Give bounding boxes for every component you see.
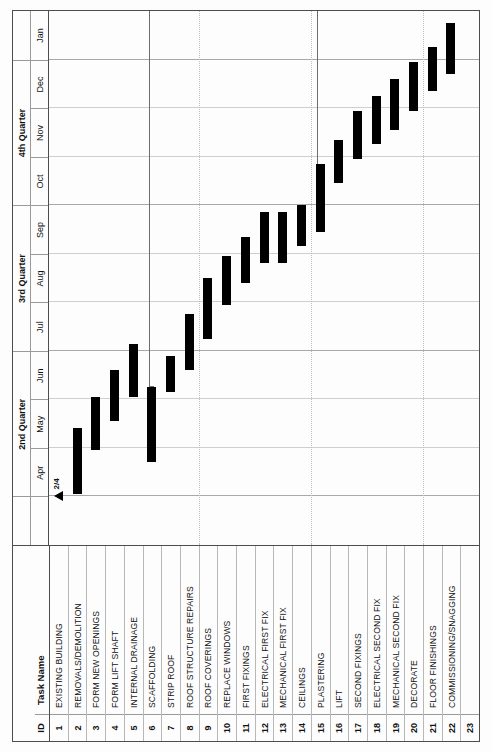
quarter-header: 4th Quarter [13, 60, 30, 206]
cell-task-name: COMMISSIONING/SNAGGING [443, 546, 461, 714]
gantt-bar[interactable] [390, 79, 399, 130]
cell-task-id: 5 [125, 714, 143, 741]
cell-task-id: 20 [405, 714, 423, 741]
gantt-bar[interactable] [278, 212, 287, 263]
milestone-marker-icon[interactable] [54, 491, 63, 501]
cell-task-name: EXISTING BUILDING [50, 546, 68, 714]
table-row[interactable]: 1EXISTING BUILDING [50, 546, 69, 741]
table-row[interactable]: 5INTERNAL DRAINAGE [125, 546, 144, 741]
table-row[interactable]: 12ELECTRICAL FIRST FIX [256, 546, 275, 741]
timescale-quarters: 2nd Quarter3rd Quarter4th Quarter [13, 11, 31, 545]
month-header: Nov [31, 108, 48, 157]
month-header: Apr [31, 448, 48, 497]
gantt-bar[interactable] [91, 397, 100, 450]
table-row[interactable]: 8ROOF STRUCTURE REPAIRS [181, 546, 200, 741]
month-header: Oct [31, 157, 48, 206]
table-row[interactable]: 15PLASTERING [312, 546, 331, 741]
timeline-gridline [49, 156, 479, 157]
cell-task-id: 14 [293, 714, 311, 741]
table-row[interactable]: 13MECHANICAL FIRST FIX [274, 546, 293, 741]
quarter-header: 2nd Quarter [13, 351, 30, 497]
cell-task-id: 23 [461, 714, 479, 741]
cell-task-name: FIRST FIXINGS [237, 546, 255, 714]
gantt-bar[interactable] [110, 370, 119, 421]
gantt-page: ID Task Name 1EXISTING BUILDING2REMOVALS… [0, 0, 492, 752]
cell-task-name: CEILINGS [293, 546, 311, 714]
cell-task-id: 17 [349, 714, 367, 741]
table-row[interactable]: 19MECHANICAL SECOND FIX [387, 546, 406, 741]
cell-task-name: LIFT [331, 546, 349, 714]
cell-task-name: PLASTERING [312, 546, 330, 714]
summary-link-line [149, 11, 150, 387]
gantt-bar[interactable] [147, 387, 156, 462]
timescale-months: AprMayJunJulAugSepOctNovDecJan [31, 11, 49, 545]
row-band-separator [199, 11, 200, 545]
table-row[interactable]: 3FORM NEW OPENINGS [87, 546, 106, 741]
timeline-gridline [49, 350, 479, 351]
month-header: Jun [31, 351, 48, 400]
month-header: May [31, 399, 48, 448]
table-row[interactable]: 20DECORATE [405, 546, 424, 741]
table-row[interactable]: 23 [461, 546, 479, 741]
cell-task-id: 2 [69, 714, 87, 741]
gantt-bar[interactable] [334, 140, 343, 184]
quarter-header: 3rd Quarter [13, 205, 30, 351]
gantt-bar[interactable] [185, 314, 194, 370]
timeline-pane: 2nd Quarter3rd Quarter4th Quarter AprMay… [13, 11, 479, 545]
cell-task-name: REMOVALS/DEMOLITION [69, 546, 87, 714]
table-row[interactable]: 11FIRST FIXINGS [237, 546, 256, 741]
cell-task-id: 8 [181, 714, 199, 741]
table-row[interactable]: 4FORM LIFT SHAFT [106, 546, 125, 741]
table-row[interactable]: 16LIFT [331, 546, 350, 741]
gantt-bar[interactable] [203, 278, 212, 339]
gantt-bar[interactable] [129, 344, 138, 397]
cell-task-id: 22 [443, 714, 461, 741]
cell-task-id: 4 [106, 714, 124, 741]
gantt-bar[interactable] [428, 47, 437, 91]
month-header: Dec [31, 60, 48, 109]
gantt-bar[interactable] [297, 205, 306, 246]
cell-task-name: ELECTRICAL FIRST FIX [256, 546, 274, 714]
row-band-separator [311, 11, 312, 545]
table-row[interactable]: 17SECOND FIXINGS [349, 546, 368, 741]
gantt-bar[interactable] [353, 111, 362, 160]
table-row[interactable]: 18ELECTRICAL SECOND FIX [368, 546, 387, 741]
gantt-bar[interactable] [241, 237, 250, 283]
cell-task-name: SECOND FIXINGS [349, 546, 367, 714]
row-band-separator [423, 11, 424, 545]
timeline-gridline [49, 204, 479, 205]
gantt-bar[interactable] [316, 164, 325, 232]
table-row[interactable]: 14CEILINGS [293, 546, 312, 741]
gantt-bar[interactable] [260, 212, 269, 263]
table-row[interactable]: 9ROOF COVERINGS [200, 546, 219, 741]
table-row[interactable]: 2REMOVALS/DEMOLITION [69, 546, 88, 741]
month-header: Jul [31, 302, 48, 351]
table-row[interactable]: 6SCAFFOLDING [144, 546, 163, 741]
cell-task-name: INTERNAL DRAINAGE [125, 546, 143, 714]
table-row[interactable]: 7STRIP ROOF [162, 546, 181, 741]
gantt-bar[interactable] [166, 356, 175, 392]
cell-task-name: ROOF COVERINGS [200, 546, 218, 714]
gantt-bar[interactable] [222, 256, 231, 305]
gantt-sheet: ID Task Name 1EXISTING BUILDING2REMOVALS… [6, 6, 486, 746]
cell-task-id: 1 [50, 714, 68, 741]
gantt-plot-area: 2/4 [49, 11, 479, 545]
cell-task-name: REPLACE WINDOWS [218, 546, 236, 714]
table-row[interactable]: 22COMMISSIONING/SNAGGING [443, 546, 462, 741]
gantt-bar[interactable] [372, 96, 381, 145]
gantt-bar[interactable] [446, 23, 455, 74]
cell-task-name [461, 546, 479, 714]
gantt-bar[interactable] [73, 429, 82, 495]
cell-task-id: 12 [256, 714, 274, 741]
table-row[interactable]: 10REPLACE WINDOWS [218, 546, 237, 741]
month-header [31, 496, 48, 545]
timeline-gridline [49, 301, 479, 302]
gantt-bar[interactable] [409, 62, 418, 111]
cell-task-id: 9 [200, 714, 218, 741]
table-row[interactable]: 21FLOOR FINISHINGS [424, 546, 443, 741]
milestone-date-label: 2/4 [52, 478, 61, 489]
timeline-gridline [49, 447, 479, 448]
timeline-gridline [49, 495, 479, 496]
month-header: Aug [31, 254, 48, 303]
cell-task-id: 10 [218, 714, 236, 741]
